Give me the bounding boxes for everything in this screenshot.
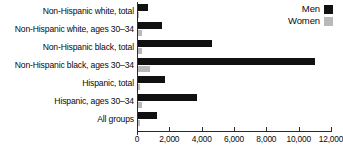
bar-row: Non-Hispanic black, ages 30–34	[0, 56, 341, 74]
x-tick	[234, 127, 235, 132]
bar-men	[137, 22, 162, 29]
x-tick	[169, 127, 170, 132]
bar-men	[137, 58, 315, 65]
bar-group	[137, 56, 337, 74]
x-tick-label: 10,000	[286, 134, 310, 144]
bar-men	[137, 76, 165, 83]
x-tick	[331, 127, 332, 132]
category-label: Non-Hispanic black, total	[2, 43, 137, 52]
x-tick-label: 0	[135, 134, 139, 144]
x-tick	[202, 127, 203, 132]
y-axis-line	[137, 2, 138, 135]
legend-item-women: Women	[288, 16, 333, 26]
bar-men	[137, 112, 157, 119]
category-label: Non-Hispanic black, ages 30–34	[2, 61, 137, 70]
bar-row: Hispanic, total	[0, 74, 341, 92]
category-label: All groups	[2, 115, 137, 124]
bar-group	[137, 110, 337, 128]
bar-men	[137, 40, 212, 47]
bar-group	[137, 38, 337, 56]
x-tick-label: 6,000	[224, 134, 244, 144]
category-label: Hispanic, ages 30–34	[2, 97, 137, 106]
bar-row: All groups	[0, 110, 341, 128]
legend-label-men: Men	[302, 4, 320, 14]
bar-row: Non-Hispanic black, total	[0, 38, 341, 56]
x-tick	[266, 127, 267, 132]
x-tick-label: 8,000	[256, 134, 276, 144]
category-label: Non-Hispanic white, ages 30–34	[2, 25, 137, 34]
bar-men	[137, 4, 148, 11]
category-label: Hispanic, total	[2, 79, 137, 88]
x-tick-label: 12,000	[319, 134, 343, 144]
bar-men	[137, 94, 197, 101]
legend-item-men: Men	[302, 4, 333, 14]
bar-group	[137, 92, 337, 110]
category-label: Non-Hispanic white, total	[2, 7, 137, 16]
bar-women	[137, 66, 150, 72]
legend-swatch-men	[324, 5, 333, 14]
x-tick-label: 4,000	[192, 134, 212, 144]
legend-swatch-women	[324, 17, 333, 26]
bar-row: Hispanic, ages 30–34	[0, 92, 341, 110]
x-tick-label: 2,000	[159, 134, 179, 144]
x-tick	[299, 127, 300, 132]
chart-legend: Men Women	[288, 4, 333, 26]
bar-group	[137, 74, 337, 92]
x-tick	[137, 127, 138, 132]
legend-label-women: Women	[288, 16, 320, 26]
